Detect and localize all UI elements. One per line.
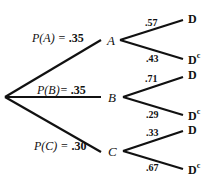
- prob-label-a: P(A) = .35: [32, 32, 84, 44]
- complement-superscript: c: [197, 51, 201, 60]
- outcome-b-d-text: D: [188, 68, 197, 82]
- outcome-a-d: D: [188, 13, 197, 25]
- outcome-c-dc: Dc: [188, 163, 200, 176]
- outcome-a-d-text: D: [188, 12, 197, 26]
- node-c: C: [108, 145, 117, 158]
- outcome-b-d: D: [188, 69, 197, 81]
- outcome-c-dc-text: D: [188, 163, 197, 177]
- branch-prob-c-dc: .67: [146, 163, 159, 173]
- prob-text-c: P(C) =: [34, 139, 71, 153]
- prob-text-b: P(B)=: [37, 83, 71, 97]
- node-a: A: [107, 34, 115, 47]
- branch-prob-a-dc: .43: [146, 54, 159, 64]
- probability-tree-diagram: P(A) = .35 P(B)= .35 P(C) = .30 A B C .5…: [0, 0, 216, 185]
- branch-prob-c-d: .33: [146, 128, 159, 138]
- outcome-b-dc-text: D: [188, 109, 197, 123]
- prob-value-a: .35: [69, 31, 84, 45]
- prob-label-b: P(B)= .35: [37, 84, 86, 96]
- branch-prob-b-d: .71: [145, 74, 158, 84]
- node-b: B: [108, 91, 116, 104]
- branch-prob-a-d: .57: [145, 18, 158, 28]
- branch-prob-b-dc: .29: [146, 110, 159, 120]
- outcome-c-d: D: [188, 124, 197, 136]
- complement-superscript: c: [197, 161, 201, 170]
- prob-text-a: P(A) =: [32, 31, 69, 45]
- outcome-a-dc: Dc: [188, 53, 200, 66]
- prob-value-b: .35: [71, 83, 86, 97]
- complement-superscript: c: [197, 107, 201, 116]
- prob-label-c: P(C) = .30: [34, 140, 86, 152]
- outcome-a-dc-text: D: [188, 53, 197, 67]
- outcome-c-d-text: D: [188, 123, 197, 137]
- outcome-b-dc: Dc: [188, 109, 200, 122]
- prob-value-c: .30: [71, 139, 86, 153]
